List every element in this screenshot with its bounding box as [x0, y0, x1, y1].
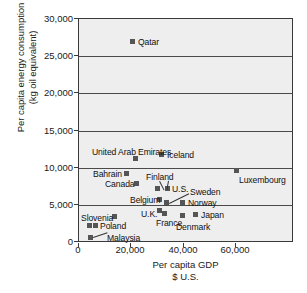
marker-finland — [155, 186, 160, 191]
marker-poland — [87, 223, 92, 228]
marker-bahrain — [124, 171, 129, 176]
gridline-20000 — [79, 93, 292, 94]
point-label-uk: U.K. — [141, 209, 157, 219]
x-axis-title-line2: $ U.S. — [172, 271, 198, 282]
x-tick-label-60000: 60,000 — [205, 244, 265, 255]
point-label-luxembourg: Luxembourg — [239, 175, 286, 185]
x-axis-title-line1: Per capita GDP — [153, 259, 219, 270]
gridline-15000 — [79, 131, 292, 132]
gridline-5000 — [79, 205, 292, 206]
leader-line-sweden — [169, 193, 189, 204]
leader-line-malaysia — [93, 232, 108, 238]
point-label-iceland: Iceland — [167, 150, 194, 160]
point-label-malaysia: Malaysia — [107, 233, 140, 243]
point-label-japan: Japan — [201, 210, 224, 220]
point-label-norway: Norway — [188, 198, 217, 208]
marker-uk — [162, 211, 167, 216]
y-axis-title-line1: Per capita energy consumption — [15, 3, 26, 133]
x-tick-label-20000: 20,000 — [100, 244, 160, 255]
marker-qatar — [130, 39, 135, 44]
y-tick-label-10000: 10,000 — [25, 162, 73, 173]
x-tick-label-40000: 40,000 — [153, 244, 213, 255]
point-label-uae: United Arab Emirates — [92, 147, 171, 157]
marker-norway — [180, 200, 185, 205]
point-label-denmark: Denmark — [176, 222, 210, 232]
marker-japan — [193, 212, 198, 217]
marker-luxembourg — [234, 168, 239, 173]
point-label-us: U.S. — [172, 184, 188, 194]
point-label-poland: Poland — [100, 221, 126, 231]
y-tick-label-5000: 5,000 — [25, 199, 73, 210]
x-axis-title: Per capita GDP$ U.S. — [78, 259, 293, 283]
point-label-bahrain: Bahrain — [93, 169, 122, 179]
x-tick-label-0: 0 — [48, 244, 108, 255]
y-tick-label-20000: 20,000 — [25, 87, 73, 98]
y-tick-label-25000: 25,000 — [25, 50, 73, 61]
y-axis-title: Per capita energy consumption(kg oil equ… — [15, 0, 38, 168]
scatter-chart-figure: Per capita energy consumption(kg oil equ… — [0, 0, 307, 293]
gridline-25000 — [79, 56, 292, 57]
point-label-sweden: Sweden — [190, 187, 220, 197]
y-tick-label-30000: 30,000 — [25, 13, 73, 24]
point-label-qatar: Qatar — [138, 37, 159, 47]
point-label-belgium: Belgium — [130, 195, 160, 205]
marker-poland-2 — [93, 223, 98, 228]
plot-area: Qatar United Arab Emirates Iceland Luxem… — [78, 18, 293, 242]
point-label-canada: Canada — [105, 179, 135, 189]
y-tick-label-15000: 15,000 — [25, 125, 73, 136]
